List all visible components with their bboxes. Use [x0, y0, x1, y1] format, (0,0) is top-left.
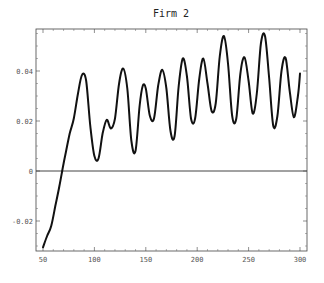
- x-tick-label: 150: [139, 256, 152, 264]
- y-tick-label: 0: [29, 168, 33, 176]
- y-tick-label: -0.02: [12, 218, 33, 226]
- chart-title: Firm 2: [153, 8, 189, 19]
- x-tick-label: 250: [242, 256, 255, 264]
- y-tick-label: 0.04: [16, 68, 33, 76]
- tick-labels: 50100150200250300-0.0200.020.04: [12, 68, 306, 265]
- axis-ticks: [36, 29, 307, 251]
- x-tick-label: 100: [88, 256, 101, 264]
- series-line-firm-2: [43, 33, 300, 247]
- plot-frame: [36, 29, 307, 251]
- x-tick-label: 300: [294, 256, 307, 264]
- x-tick-label: 50: [39, 256, 47, 264]
- x-tick-label: 200: [191, 256, 204, 264]
- line-chart: Firm 2 50100150200250300-0.0200.020.04: [0, 0, 324, 283]
- y-tick-label: 0.02: [16, 118, 33, 126]
